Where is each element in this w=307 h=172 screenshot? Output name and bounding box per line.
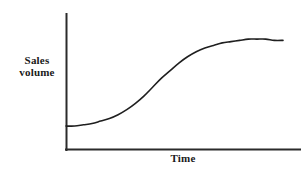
chart-plot-area bbox=[0, 0, 307, 172]
x-axis-label: Time bbox=[66, 152, 300, 164]
axes-group bbox=[66, 14, 300, 150]
y-axis-label-line-2: volume bbox=[12, 67, 62, 79]
series-group bbox=[66, 39, 283, 126]
chart-figure: Sales volume Time bbox=[0, 0, 307, 172]
y-axis-label: Sales volume bbox=[12, 55, 62, 78]
y-axis-label-line-1: Sales bbox=[12, 55, 62, 67]
sales-volume-curve bbox=[66, 39, 283, 126]
